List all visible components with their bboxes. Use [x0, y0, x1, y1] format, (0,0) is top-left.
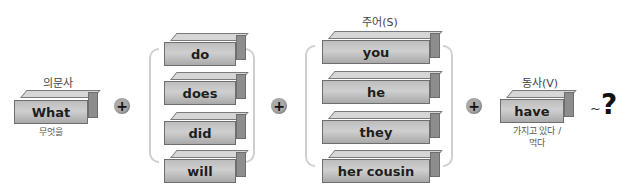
plus-icon-2: + [271, 98, 287, 114]
plus-icon-3: + [466, 98, 482, 114]
verb-heading: 동사(V) [500, 74, 580, 90]
verb-meaning: 가지고 있다 / 먹다 [492, 125, 582, 149]
subject-block-he: he [322, 71, 440, 104]
verb-meaning-line1: 가지고 있다 / [492, 125, 582, 137]
question-word-meaning: 무엇을 [14, 126, 88, 138]
aux-block-does: does [164, 72, 246, 105]
subject-block-her-cousin: her cousin [322, 150, 440, 183]
tilde-symbol: ~ [590, 101, 601, 116]
aux-block-do: do [164, 33, 246, 66]
verb-text: have [500, 99, 564, 123]
aux-block-did: did [164, 112, 246, 145]
aux-text: do [164, 42, 236, 66]
subject-text: you [322, 40, 430, 64]
aux-text: does [164, 81, 236, 105]
subject-block-they: they [322, 111, 440, 144]
question-word-block: What [14, 90, 98, 124]
question-mark-symbol: ? [601, 88, 617, 121]
verb-block: have [500, 90, 574, 123]
subject-block-you: you [322, 31, 440, 64]
verb-meaning-line2: 먹다 [492, 137, 582, 149]
question-word-text: What [14, 100, 88, 124]
subject-text: her cousin [322, 159, 430, 183]
bracket-right-subject [443, 45, 453, 167]
subject-text: he [322, 80, 430, 104]
plus-icon-1: + [114, 98, 130, 114]
subject-heading: 주어(S) [330, 13, 430, 29]
bracket-left-aux [149, 48, 159, 163]
question-word-heading: 의문사 [18, 74, 98, 90]
subject-text: they [322, 120, 430, 144]
aux-text: did [164, 121, 236, 145]
aux-block-will: will [164, 150, 246, 183]
bracket-right-aux [245, 48, 255, 163]
aux-text: will [164, 159, 236, 183]
bracket-left-subject [305, 45, 315, 167]
